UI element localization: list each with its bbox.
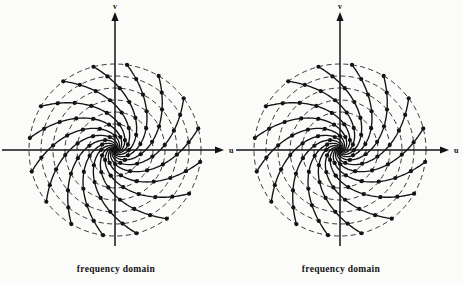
frequency-domain-diagram: uvfrequency domainuvfrequency domain [0, 0, 462, 283]
sample-point [100, 153, 104, 157]
sample-point [358, 116, 362, 120]
panel-caption: frequency domain [302, 264, 381, 274]
sample-point [127, 126, 131, 130]
v-axis-arrowhead [111, 12, 118, 21]
sample-point [168, 176, 172, 180]
sample-point [343, 198, 347, 202]
sample-point [137, 192, 141, 196]
v-axis-label: v [338, 2, 342, 11]
sample-point [343, 161, 347, 165]
sample-point [100, 143, 104, 147]
sample-point [343, 135, 347, 139]
sample-point [87, 144, 91, 148]
sample-point [99, 196, 103, 200]
sample-point [148, 213, 152, 217]
v-axis-arrowhead [336, 12, 343, 21]
sample-point [125, 63, 129, 67]
sample-point [134, 133, 138, 137]
sample-point [81, 127, 85, 131]
sample-point [300, 141, 304, 145]
panel-caption: frequency domain [77, 264, 156, 274]
sample-point [348, 138, 352, 142]
sample-point [400, 153, 404, 157]
sample-point [78, 83, 82, 87]
sample-point [303, 83, 307, 87]
sample-point [324, 196, 328, 200]
sample-point [157, 74, 161, 78]
sample-point [291, 205, 295, 209]
sample-point [264, 155, 268, 159]
sample-point [133, 116, 137, 120]
sample-point [132, 207, 136, 211]
sample-point [128, 169, 132, 173]
sample-point [126, 143, 130, 147]
sample-point [328, 158, 332, 162]
sample-point [30, 169, 34, 173]
sample-point [184, 169, 188, 173]
v-axis-label: v [113, 2, 117, 11]
sample-point [363, 142, 367, 146]
sample-point [373, 213, 377, 217]
sample-point [330, 74, 334, 78]
sample-point [317, 219, 321, 223]
sample-point [344, 173, 348, 177]
sample-point [108, 98, 112, 102]
sample-point [276, 143, 280, 147]
sample-point [178, 113, 182, 117]
sample-point [92, 180, 96, 184]
sample-point [332, 123, 336, 127]
sample-point [333, 98, 337, 102]
sample-point [109, 174, 113, 178]
sample-point [351, 143, 355, 147]
sample-point [187, 192, 191, 196]
sample-point [160, 91, 164, 95]
sample-point [121, 185, 125, 189]
sample-point [117, 122, 121, 126]
sample-point [316, 65, 320, 69]
sample-point [63, 153, 67, 157]
sample-point [66, 188, 70, 192]
sample-point [298, 101, 302, 105]
sample-point [28, 136, 32, 140]
sample-point [187, 140, 191, 144]
sample-point [423, 160, 427, 164]
sample-point [350, 63, 354, 67]
sample-point [362, 192, 366, 196]
sample-point [313, 154, 317, 158]
sample-point [330, 111, 334, 115]
sample-point [105, 74, 109, 78]
sample-point [160, 108, 164, 112]
sample-point [294, 172, 298, 176]
sample-point [378, 195, 382, 199]
sample-point [108, 135, 112, 139]
sample-point [94, 89, 98, 93]
sample-point [382, 74, 386, 78]
sample-point [345, 222, 349, 226]
sample-point [134, 77, 138, 81]
u-axis-arrowhead [440, 146, 449, 153]
sample-point [138, 142, 142, 146]
sample-point [58, 120, 62, 124]
sample-point [281, 101, 285, 105]
sample-point [91, 134, 95, 138]
sample-point [357, 207, 361, 211]
sample-point [348, 158, 352, 162]
sample-point [412, 140, 416, 144]
sample-point [370, 109, 374, 113]
sample-point [198, 160, 202, 164]
sample-point [390, 217, 394, 221]
sample-point [352, 100, 356, 104]
right-panel: uvfrequency domain [236, 2, 459, 274]
sample-point [346, 185, 350, 189]
sample-point [123, 138, 127, 142]
sample-point [325, 143, 329, 147]
sample-point [88, 154, 92, 158]
sample-point [421, 126, 425, 130]
sample-point [352, 126, 356, 130]
sample-point [98, 127, 102, 131]
sample-point [153, 195, 157, 199]
sample-point [382, 124, 386, 128]
sample-point [108, 161, 112, 165]
sample-point [324, 170, 328, 174]
sample-point [92, 219, 96, 223]
